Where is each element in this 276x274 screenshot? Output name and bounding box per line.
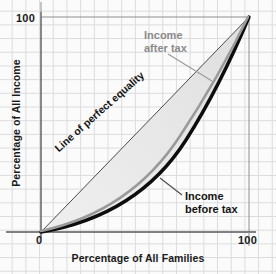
annotation-income-before-tax: Income before tax xyxy=(185,190,238,216)
before-tax-leader-line xyxy=(160,178,182,195)
x-axis-tick-0: 0 xyxy=(36,234,42,246)
y-axis-title: Percentage of All Income xyxy=(10,43,22,203)
x-axis-title: Percentage of All Families xyxy=(0,252,276,264)
y-axis-tick-100: 100 xyxy=(16,12,35,24)
annotation-income-after-tax: Income after tax xyxy=(144,29,187,55)
x-axis-tick-100: 100 xyxy=(238,234,257,246)
chart-canvas xyxy=(0,0,276,274)
lorenz-curve-figure: 100 0 100 Percentage of All Families Per… xyxy=(0,0,276,274)
